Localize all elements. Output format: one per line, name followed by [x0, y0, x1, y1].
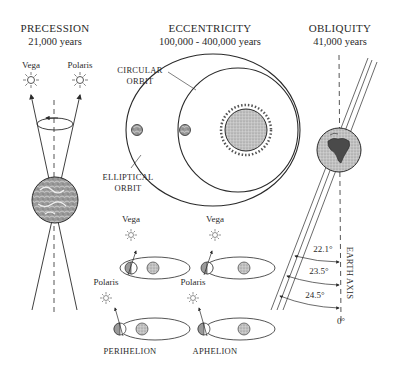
mini-vega-left: Vega [115, 214, 147, 224]
angle-23-5: 23.5° [304, 266, 334, 276]
precession-period: 21,000 years [15, 36, 95, 47]
circular-orbit-label-2: ORBIT [112, 76, 168, 86]
mini-vega-right: Vega [199, 214, 231, 224]
eccentricity-period: 100,000 - 400,000 years [145, 36, 275, 47]
polaris-label: Polaris [62, 60, 98, 70]
earth-elliptical-icon [132, 125, 143, 136]
aphelion-label: APHELION [185, 346, 245, 356]
obliquity-title: OBLIQUITY [300, 22, 380, 34]
circular-orbit-label-1: CIRCULAR [112, 65, 168, 75]
precession-circle [37, 118, 73, 130]
earth-axis-line [339, 55, 341, 322]
earth-circular-icon [180, 125, 191, 136]
polaris-star-icon [72, 72, 88, 88]
elliptical-orbit-label-1: ELLIPTICAL [98, 172, 158, 182]
mini-polaris-left: Polaris [88, 277, 124, 287]
precession-group [23, 72, 88, 315]
eccentricity-title: ECCENTRICITY [150, 22, 270, 34]
obliquity-group [271, 55, 377, 322]
zero-degree-label: 0° [332, 316, 350, 326]
vega-label: Vega [15, 60, 47, 70]
vega-star-icon [23, 72, 39, 88]
perihelion-label: PERIHELION [95, 346, 165, 356]
elliptical-orbit-label-2: ORBIT [98, 183, 158, 193]
angle-22-1: 22.1° [308, 244, 338, 254]
obliquity-period: 41,000 years [300, 36, 380, 47]
angle-24-5: 24.5° [300, 290, 330, 300]
earth-globe-icon [32, 177, 78, 223]
precession-title: PRECESSION [15, 22, 95, 34]
earth-axis-label: EARTH AXIS [345, 243, 355, 303]
sun-icon [221, 105, 271, 155]
mini-polaris-right: Polaris [175, 277, 211, 287]
